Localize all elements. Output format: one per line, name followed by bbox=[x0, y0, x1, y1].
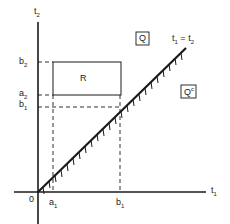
tick-b2-y: b2 bbox=[19, 56, 27, 68]
tick-a1-x: a1 bbox=[49, 197, 57, 209]
t2-axis-label: t2 bbox=[34, 6, 40, 18]
region-qc-label: Qc bbox=[184, 86, 194, 97]
diagonal-label: t1 = t2 bbox=[172, 33, 194, 45]
tick-b1-y: b1 bbox=[19, 99, 27, 111]
region-r-label: R bbox=[80, 73, 87, 83]
tick-b1-x: b1 bbox=[116, 197, 124, 209]
t1-axis-label: t1 bbox=[211, 185, 217, 197]
region-q-label: Q bbox=[139, 33, 146, 43]
origin-label: 0 bbox=[29, 194, 34, 204]
